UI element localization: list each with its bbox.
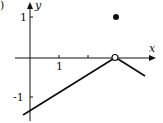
panel-label: ) <box>0 0 4 12</box>
x-axis: x <box>15 42 156 61</box>
x-tick-label-1: 1 <box>56 60 63 73</box>
open-point <box>112 55 118 61</box>
function-graph: ) x y 1 1 -1 <box>0 0 163 123</box>
y-tick-label-neg1: -1 <box>13 91 24 104</box>
x-axis-label: x <box>149 42 156 55</box>
filled-point <box>113 14 119 20</box>
y-axis-arrow-icon <box>27 2 33 9</box>
segment-right <box>118 59 145 76</box>
y-axis-label: y <box>34 0 42 12</box>
y-tick-label-1: 1 <box>20 11 27 24</box>
segment-left <box>23 59 113 115</box>
x-axis-arrow-icon <box>149 55 156 61</box>
graph-curve <box>23 59 145 115</box>
y-axis: y <box>27 0 42 121</box>
